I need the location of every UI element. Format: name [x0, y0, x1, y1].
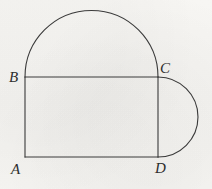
vertex-label-a: A [11, 162, 20, 177]
vertex-label-c: C [160, 61, 170, 76]
semicircle-on-CD-arc [158, 77, 198, 157]
figure-drawing [0, 0, 212, 189]
vertex-label-d: D [155, 161, 166, 176]
semicircle-on-BC-arc [25, 11, 158, 78]
vertex-label-b: B [9, 70, 18, 85]
geometry-figure: A B C D [0, 0, 212, 189]
